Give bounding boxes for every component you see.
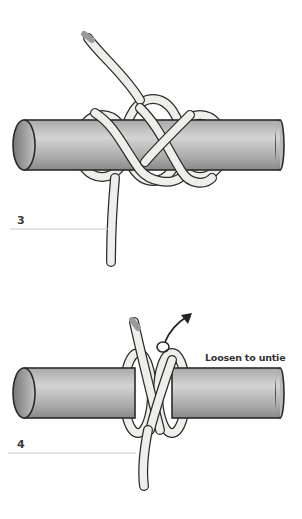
- step-number-3: 3: [17, 214, 25, 227]
- loosen-arrow-icon: [165, 313, 192, 342]
- loosen-annotation: Loosen to untie: [205, 352, 285, 363]
- step-3-illustration: [10, 34, 284, 262]
- step-4-illustration: [8, 313, 284, 486]
- step-number-4: 4: [17, 438, 25, 451]
- knot-diagram: [0, 0, 302, 519]
- rope-front-strands-4: [132, 320, 172, 486]
